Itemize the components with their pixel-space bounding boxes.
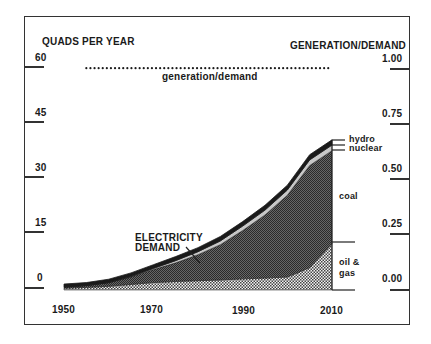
coal-label: coal: [339, 191, 358, 201]
chart-plot: [0, 0, 431, 344]
coal-area: [64, 151, 332, 289]
gen-demand-label: generation/demand: [162, 71, 258, 82]
oil-gas-label: oil & gas: [339, 257, 360, 279]
nuclear-label: nuclear: [349, 143, 382, 153]
oil-gas-line2: gas: [339, 268, 360, 279]
demand-label-line2: DEMAND: [135, 243, 203, 253]
generation-demand-line: [85, 67, 329, 69]
electricity-demand-label: ELECTRICITY DEMAND: [135, 233, 203, 253]
oil-gas-line1: oil &: [339, 257, 360, 268]
